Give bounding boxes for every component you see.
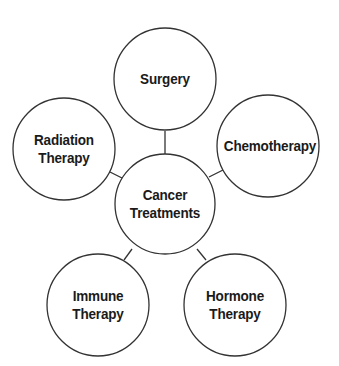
center-text-line2: Treatments	[130, 204, 200, 222]
node-hormone-label: Hormone Therapy	[190, 286, 280, 324]
immune-text-line2: Therapy	[72, 305, 123, 323]
immune-text-line1: Immune	[73, 287, 124, 305]
connector-immune	[124, 249, 132, 260]
connector-chemotherapy	[209, 170, 223, 177]
hormone-text-line1: Hormone	[206, 287, 264, 305]
center-text-line1: Cancer	[143, 186, 188, 204]
node-chemotherapy-label: Chemotherapy	[218, 136, 322, 156]
center-label: Cancer Treatments	[120, 185, 210, 223]
diagram-canvas	[0, 0, 339, 366]
node-immune-label: Immune Therapy	[53, 286, 143, 324]
connector-radiation	[110, 172, 122, 178]
hormone-text-line2: Therapy	[209, 305, 260, 323]
radiation-text-line2: Therapy	[38, 149, 89, 167]
connector-hormone	[197, 249, 206, 260]
radiation-text-line1: Radiation	[34, 131, 94, 149]
surgery-text: Surgery	[140, 70, 190, 88]
node-surgery-label: Surgery	[120, 69, 210, 89]
node-radiation-label: Radiation Therapy	[19, 130, 109, 168]
chemotherapy-text: Chemotherapy	[224, 137, 316, 155]
